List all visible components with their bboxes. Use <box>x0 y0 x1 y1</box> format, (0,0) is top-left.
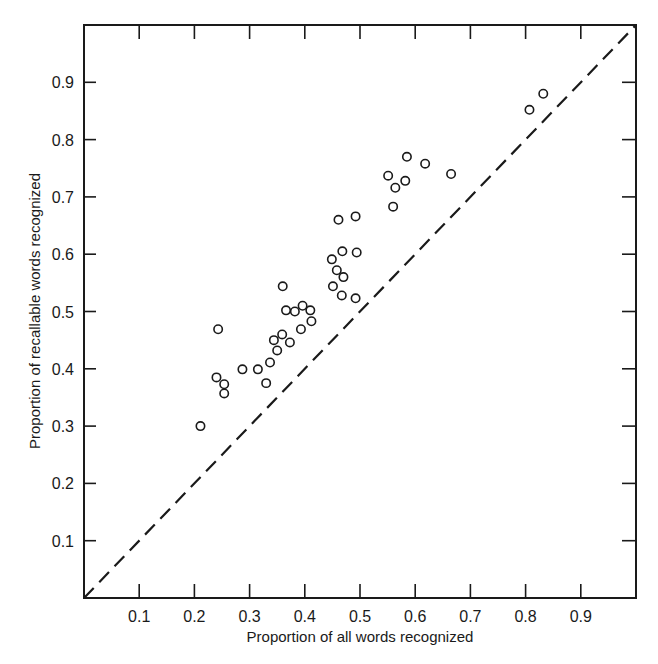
y-tick-label: 0.9 <box>52 74 74 91</box>
data-point-marker <box>273 346 281 354</box>
data-point-marker <box>212 373 220 381</box>
data-point-marker <box>214 325 222 333</box>
data-point-marker <box>278 330 286 338</box>
x-axis-ticks: 0.10.20.30.40.50.60.70.80.9 <box>128 25 592 625</box>
data-point-marker <box>220 380 228 388</box>
data-point-marker <box>328 255 336 263</box>
identity-dashed-line <box>84 25 636 598</box>
data-point-marker <box>421 159 429 167</box>
data-point-marker <box>279 282 287 290</box>
data-point-marker <box>338 247 346 255</box>
x-tick-label: 0.5 <box>349 608 371 625</box>
y-axis-label: Proportion of recallable words recognize… <box>26 173 43 449</box>
x-tick-label: 0.3 <box>238 608 260 625</box>
x-tick-label: 0.4 <box>294 608 316 625</box>
y-tick-label: 0.8 <box>52 132 74 149</box>
data-point-marker <box>351 212 359 220</box>
data-points <box>196 90 547 431</box>
x-tick-label: 0.8 <box>514 608 536 625</box>
data-point-marker <box>401 177 409 185</box>
data-point-marker <box>525 106 533 114</box>
data-point-marker <box>262 379 270 387</box>
data-point-marker <box>266 358 274 366</box>
data-point-marker <box>282 306 290 314</box>
data-point-marker <box>338 291 346 299</box>
y-tick-label: 0.5 <box>52 304 74 321</box>
data-point-marker <box>329 282 337 290</box>
y-axis-ticks: 0.10.20.30.40.50.60.70.80.9 <box>52 74 636 549</box>
data-point-marker <box>306 306 314 314</box>
data-point-marker <box>270 336 278 344</box>
x-axis-label: Proportion of all words recognized <box>247 628 474 645</box>
data-point-marker <box>291 307 299 315</box>
data-point-marker <box>447 170 455 178</box>
diagonal-line <box>84 25 636 598</box>
x-tick-label: 0.1 <box>128 608 150 625</box>
scatter-chart: 0.10.20.30.40.50.60.70.80.9 0.10.20.30.4… <box>0 0 658 664</box>
data-point-marker <box>297 325 305 333</box>
data-point-marker <box>196 422 204 430</box>
data-point-marker <box>539 90 547 98</box>
y-tick-label: 0.6 <box>52 246 74 263</box>
x-tick-label: 0.9 <box>570 608 592 625</box>
data-point-marker <box>384 171 392 179</box>
data-point-marker <box>389 202 397 210</box>
data-point-marker <box>220 389 228 397</box>
x-tick-label: 0.6 <box>404 608 426 625</box>
y-tick-label: 0.1 <box>52 533 74 550</box>
data-point-marker <box>298 302 306 310</box>
data-point-marker <box>391 184 399 192</box>
data-point-marker <box>286 338 294 346</box>
data-point-marker <box>339 273 347 281</box>
x-tick-label: 0.2 <box>183 608 205 625</box>
data-point-marker <box>238 365 246 373</box>
data-point-marker <box>403 153 411 161</box>
y-tick-label: 0.7 <box>52 189 74 206</box>
y-tick-label: 0.3 <box>52 418 74 435</box>
x-tick-label: 0.7 <box>459 608 481 625</box>
data-point-marker <box>352 248 360 256</box>
y-tick-label: 0.2 <box>52 475 74 492</box>
data-point-marker <box>334 216 342 224</box>
y-tick-label: 0.4 <box>52 361 74 378</box>
data-point-marker <box>254 365 262 373</box>
data-point-marker <box>333 266 341 274</box>
data-point-marker <box>307 317 315 325</box>
data-point-marker <box>351 294 359 302</box>
